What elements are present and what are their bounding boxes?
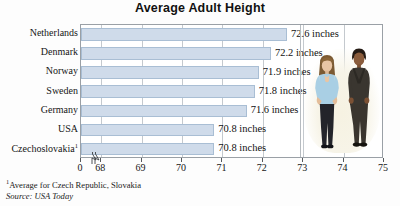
photo-man-figure — [340, 47, 378, 153]
x-axis: 06869707172737475 — [80, 158, 383, 176]
category-label: Netherlands — [0, 27, 78, 38]
x-tick-label: 72 — [257, 162, 267, 173]
bar-value-label: 70.8 inches — [218, 142, 266, 153]
category-label: Czechoslovakia1 — [0, 142, 78, 154]
category-axis-labels: NetherlandsDenmarkNorwaySwedenGermanyUSA… — [0, 24, 78, 158]
x-tick-label: 0 — [78, 162, 83, 173]
photo-divider — [300, 25, 301, 157]
bar[interactable] — [81, 47, 271, 60]
category-label: USA — [0, 123, 78, 134]
category-footnote-marker: 1 — [75, 142, 78, 149]
bar-value-label: 71.6 inches — [251, 104, 299, 115]
x-tick-label: 73 — [297, 162, 307, 173]
x-tick-label: 71 — [216, 162, 226, 173]
x-tick-label: 70 — [176, 162, 186, 173]
bar[interactable] — [81, 28, 287, 41]
x-tick-label: 75 — [378, 162, 388, 173]
footnotes: 1Average for Czech Republic, Slovakia So… — [6, 176, 386, 202]
x-tick-label: 74 — [338, 162, 348, 173]
category-label: Germany — [0, 104, 78, 115]
x-tick-label: 69 — [136, 162, 146, 173]
photo-woman-figure — [310, 55, 344, 153]
chart-figure: Average Adult Height NetherlandsDenmarkN… — [0, 0, 400, 206]
bar[interactable] — [81, 85, 255, 98]
bar[interactable] — [81, 66, 259, 79]
bar-value-label: 70.8 inches — [218, 123, 266, 134]
chart-title: Average Adult Height — [0, 1, 400, 15]
x-tick-label: 68 — [95, 162, 105, 173]
footnote-text: Average for Czech Republic, Slovakia — [9, 180, 141, 190]
footnote-czech: 1Average for Czech Republic, Slovakia — [6, 176, 386, 191]
bar[interactable] — [81, 105, 247, 118]
category-label: Norway — [0, 65, 78, 76]
photo-panel — [300, 25, 382, 157]
bar[interactable] — [81, 124, 214, 137]
source-line: Source: USA Today — [6, 191, 386, 202]
category-label: Denmark — [0, 46, 78, 57]
category-label: Sweden — [0, 85, 78, 96]
